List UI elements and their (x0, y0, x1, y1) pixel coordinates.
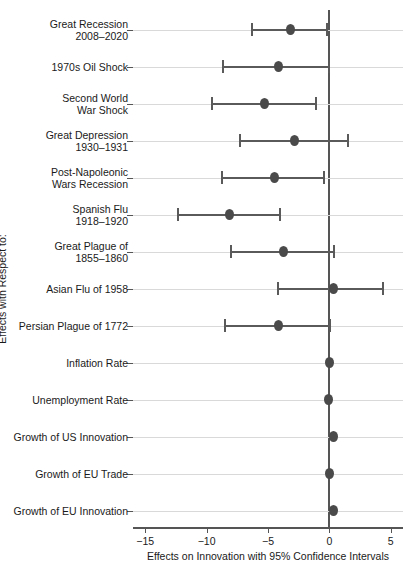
ci-lower-cap (277, 282, 279, 295)
gridline (133, 400, 403, 401)
ci-lower-cap (230, 245, 232, 258)
zero-reference-line (328, 10, 330, 527)
estimate-marker[interactable] (260, 98, 269, 109)
y-axis-label: 1970s Oil Shock (0, 61, 128, 73)
x-axis-tick-label: 0 (326, 535, 332, 547)
y-axis-label: Great Plague of 1855–1860 (0, 240, 128, 264)
x-axis-title: Effects on Innovation with 95% Confidenc… (133, 550, 403, 562)
x-axis-tick-label: 5 (388, 535, 394, 547)
estimate-marker[interactable] (324, 394, 333, 405)
y-axis-label: Post-Napoleonic Wars Recession (0, 166, 128, 190)
ci-lower-cap (239, 134, 241, 147)
y-axis-label: Asian Flu of 1958 (0, 283, 128, 295)
estimate-marker[interactable] (225, 209, 234, 220)
ci-lower-cap (224, 319, 226, 332)
y-axis-label: Inflation Rate (0, 357, 128, 369)
y-axis-label: Unemployment Rate (0, 394, 128, 406)
x-axis-tick-label: −10 (198, 535, 216, 547)
x-axis-tick-label: −15 (136, 535, 154, 547)
gridline (133, 437, 403, 438)
ci-upper-cap (347, 134, 349, 147)
estimate-marker[interactable] (329, 431, 338, 442)
ci-lower-cap (177, 208, 179, 221)
y-axis-label: Growth of EU Innovation (0, 505, 128, 517)
ci-upper-cap (328, 60, 330, 73)
y-axis-label: Growth of US Innovation (0, 431, 128, 443)
ci-upper-cap (333, 245, 335, 258)
y-axis-label: Great Depression 1930–1931 (0, 129, 128, 153)
estimate-marker[interactable] (270, 172, 279, 183)
x-axis-tick (329, 527, 330, 533)
ci-upper-cap (382, 282, 384, 295)
ci-lower-cap (221, 171, 223, 184)
ci-upper-cap (279, 208, 281, 221)
x-axis-tick-label: −5 (262, 535, 274, 547)
plot-area: −15−10−505 (133, 10, 403, 527)
forest-plot-figure: Effects with Respect to: −15−10−505 Effe… (0, 0, 403, 578)
x-axis-tick (391, 527, 392, 533)
y-axis-label: Growth of EU Trade (0, 468, 128, 480)
ci-lower-cap (251, 23, 253, 36)
x-axis-tick (145, 527, 146, 533)
x-axis-tick (207, 527, 208, 533)
ci-upper-cap (329, 319, 331, 332)
gridline (133, 511, 403, 512)
estimate-marker[interactable] (329, 283, 338, 294)
y-axis-label: Spanish Flu 1918–1920 (0, 203, 128, 227)
estimate-marker[interactable] (329, 505, 338, 516)
x-axis-tick (268, 527, 269, 533)
y-axis-label: Persian Plague of 1772 (0, 320, 128, 332)
ci-lower-cap (222, 60, 224, 73)
y-axis-label: Second World War Shock (0, 92, 128, 116)
gridline (133, 363, 403, 364)
estimate-marker[interactable] (279, 246, 288, 257)
estimate-marker[interactable] (274, 320, 283, 331)
y-axis-label: Great Recession 2008–2020 (0, 18, 128, 42)
estimate-marker[interactable] (325, 357, 334, 368)
estimate-marker[interactable] (286, 24, 295, 35)
estimate-marker[interactable] (325, 468, 334, 479)
ci-upper-cap (315, 97, 317, 110)
estimate-marker[interactable] (290, 135, 299, 146)
gridline (133, 474, 403, 475)
ci-upper-cap (326, 23, 328, 36)
ci-lower-cap (211, 97, 213, 110)
ci-upper-cap (323, 171, 325, 184)
estimate-marker[interactable] (274, 61, 283, 72)
